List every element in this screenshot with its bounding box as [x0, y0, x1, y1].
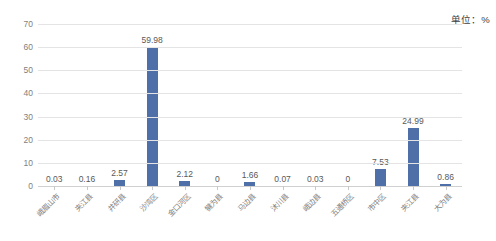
- y-axis-tick-label: 70: [24, 19, 33, 29]
- bar[interactable]: 24.99: [408, 128, 419, 186]
- bar-slot: 0.03: [38, 24, 71, 186]
- x-axis-tick-label: 峨边县: [300, 191, 323, 214]
- x-axis-tick-label: 沐川县: [267, 191, 290, 214]
- bar-value-label: 59.98: [141, 35, 162, 45]
- bar-slot: 0.07: [266, 24, 299, 186]
- bar-value-label: 2.57: [111, 168, 128, 178]
- bar-value-label: 24.99: [402, 116, 423, 126]
- gridline: [38, 163, 462, 164]
- y-axis-tick-label: 20: [24, 135, 33, 145]
- bar-value-label: 2.12: [176, 169, 193, 179]
- x-axis-tick-label: 夹江县: [398, 191, 421, 214]
- x-axis-label-slot: 井研县: [103, 190, 136, 240]
- bar[interactable]: 7.53: [375, 169, 386, 186]
- bar-value-label: 0: [215, 174, 220, 184]
- x-axis-tick-label: 大为县: [431, 191, 454, 214]
- bar-value-label: 0.86: [437, 172, 454, 182]
- x-axis-tick-label: 犍为县: [202, 191, 225, 214]
- gridline: [38, 93, 462, 94]
- bar-value-label: 1.66: [242, 170, 259, 180]
- x-axis-label-slot: 峨眉山市: [38, 190, 71, 240]
- bar-value-label: 0.07: [274, 174, 291, 184]
- y-axis: 010203040506070: [0, 24, 38, 186]
- bar-slot: 2.57: [103, 24, 136, 186]
- gridline: [38, 24, 462, 25]
- x-axis-tick-label: 金口河区: [165, 191, 193, 219]
- x-axis-tick-label: 马边县: [235, 191, 258, 214]
- x-axis-tick-label: 五通桥区: [328, 191, 356, 219]
- x-axis-label-slot: 市中区: [364, 190, 397, 240]
- bar-value-label: 0: [345, 174, 350, 184]
- bar-slot: 2.12: [168, 24, 201, 186]
- x-axis-label-slot: 峨边县: [299, 190, 332, 240]
- x-axis-tick-label: 井研县: [104, 191, 127, 214]
- plot-area: 0.030.162.5759.982.1201.660.070.0307.532…: [38, 24, 462, 186]
- y-axis-tick-label: 0: [28, 181, 33, 191]
- x-axis-label-slot: 五通桥区: [331, 190, 364, 240]
- bar-value-label: 0.03: [307, 174, 324, 184]
- x-axis-label-slot: 犍为县: [201, 190, 234, 240]
- gridline: [38, 117, 462, 118]
- bar-value-label: 0.16: [79, 174, 96, 184]
- x-axis-tick-label: 夹江县: [72, 191, 95, 214]
- y-axis-tick-label: 40: [24, 88, 33, 98]
- y-axis-tick-label: 30: [24, 112, 33, 122]
- bar-value-label: 0.03: [46, 174, 63, 184]
- bar-chart: 单位：% 010203040506070 0.030.162.5759.982.…: [0, 0, 496, 241]
- x-axis-tick-label: 市中区: [365, 191, 388, 214]
- x-axis-label-slot: 沙湾区: [136, 190, 169, 240]
- bar-slot: 0: [331, 24, 364, 186]
- bar-slot: 0: [201, 24, 234, 186]
- y-axis-tick-label: 10: [24, 158, 33, 168]
- bar-slot: 24.99: [397, 24, 430, 186]
- bar-slot: 0.16: [71, 24, 104, 186]
- bar-slot: 1.66: [234, 24, 267, 186]
- bar-slot: 7.53: [364, 24, 397, 186]
- x-axis-label-slot: 大为县: [429, 190, 462, 240]
- x-axis-tick-label: 沙湾区: [137, 191, 160, 214]
- bar-series: 0.030.162.5759.982.1201.660.070.0307.532…: [38, 24, 462, 186]
- y-axis-tick-label: 50: [24, 65, 33, 75]
- bar-slot: 59.98: [136, 24, 169, 186]
- x-axis-label-slot: 金口河区: [168, 190, 201, 240]
- gridline: [38, 70, 462, 71]
- bar-value-label: 7.53: [372, 157, 389, 167]
- x-axis-tick-label: 峨眉山市: [34, 191, 62, 219]
- gridline: [38, 47, 462, 48]
- x-axis-label-slot: 夹江县: [397, 190, 430, 240]
- gridline: [38, 140, 462, 141]
- x-axis-label-slot: 马边县: [234, 190, 267, 240]
- bar-slot: 0.03: [299, 24, 332, 186]
- x-axis-label-slot: 沐川县: [266, 190, 299, 240]
- y-axis-tick-label: 60: [24, 42, 33, 52]
- bar-slot: 0.86: [429, 24, 462, 186]
- x-axis-label-slot: 夹江县: [71, 190, 104, 240]
- x-axis-labels: 峨眉山市夹江县井研县沙湾区金口河区犍为县马边县沐川县峨边县五通桥区市中区夹江县大…: [38, 190, 462, 240]
